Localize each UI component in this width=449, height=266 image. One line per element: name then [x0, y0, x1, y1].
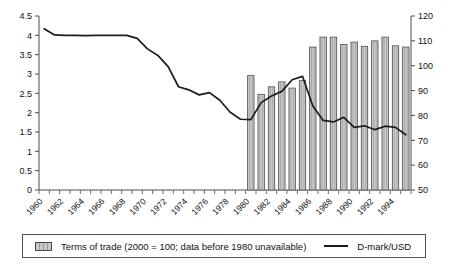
left-axis-tick-label: 2.5: [19, 89, 32, 99]
x-axis-label: 1978: [210, 196, 231, 217]
left-axis-tick-label: 2: [27, 108, 32, 118]
x-axis-label: 1974: [169, 196, 190, 217]
x-axis-label: 1964: [65, 196, 86, 217]
left-axis-tick-label: 3.5: [19, 50, 32, 60]
right-axis-tick-label: 120: [418, 11, 433, 21]
bar: [279, 82, 285, 190]
legend-label-d-mark-usd: D-mark/USD: [357, 241, 411, 252]
bar: [403, 47, 409, 190]
bar: [258, 94, 264, 190]
x-axis-label: 1984: [272, 196, 293, 217]
left-axis-tick-label: 4: [27, 31, 32, 41]
bar: [248, 76, 254, 190]
left-axis-tick-label: 1.5: [19, 127, 32, 137]
bar: [268, 87, 274, 190]
bar: [330, 37, 336, 190]
x-axis-label: 1972: [148, 196, 169, 217]
left-axis-tick-label: 3: [27, 69, 32, 79]
bar: [372, 41, 378, 190]
right-axis-tick-label: 60: [418, 160, 428, 170]
bar: [299, 81, 305, 190]
bar: [351, 42, 357, 190]
x-axis-label: 1982: [251, 196, 272, 217]
x-axis-label: 1986: [293, 196, 314, 217]
chart-plot-area: 00.511.522.533.544.550607080901001101201…: [0, 0, 449, 234]
bar: [289, 88, 295, 190]
x-axis-label: 1970: [127, 196, 148, 217]
x-axis-label: 1962: [45, 196, 66, 217]
chart-legend: Terms of trade (2000 = 100; data before …: [22, 234, 426, 258]
right-axis-tick-label: 80: [418, 111, 428, 121]
left-axis-tick-label: 1: [27, 147, 32, 157]
x-axis-label: 1960: [24, 196, 45, 217]
x-axis-label: 1980: [231, 196, 252, 217]
x-axis-label: 1988: [313, 196, 334, 217]
x-axis-label: 1976: [189, 196, 210, 217]
legend-swatch-bar: [35, 242, 52, 251]
bar: [392, 46, 398, 190]
x-axis-label: 1966: [86, 196, 107, 217]
left-axis-tick-label: 4.5: [19, 11, 32, 21]
right-axis-tick-label: 90: [418, 86, 428, 96]
left-axis-tick-label: 0.5: [19, 166, 32, 176]
chart-figure: 00.511.522.533.544.550607080901001101201…: [0, 0, 449, 266]
left-axis-tick-label: 0: [27, 185, 32, 195]
x-axis-label: 1992: [355, 196, 376, 217]
bar: [361, 46, 367, 190]
right-axis-tick-label: 100: [418, 61, 433, 71]
x-axis-label: 1968: [107, 196, 128, 217]
legend-entry-terms-of-trade[interactable]: Terms of trade (2000 = 100; data before …: [35, 241, 306, 252]
right-axis-tick-label: 70: [418, 136, 428, 146]
x-axis-label: 1994: [375, 196, 396, 217]
x-axis-label: 1990: [334, 196, 355, 217]
legend-swatch-line: [324, 245, 348, 247]
legend-entry-d-mark-usd[interactable]: D-mark/USD: [324, 241, 411, 252]
bar: [320, 37, 326, 190]
right-axis-tick-label: 110: [418, 36, 432, 46]
right-axis-tick-label: 50: [418, 185, 428, 195]
bar: [382, 37, 388, 190]
legend-label-terms-of-trade: Terms of trade (2000 = 100; data before …: [61, 241, 306, 252]
bar: [310, 47, 316, 190]
